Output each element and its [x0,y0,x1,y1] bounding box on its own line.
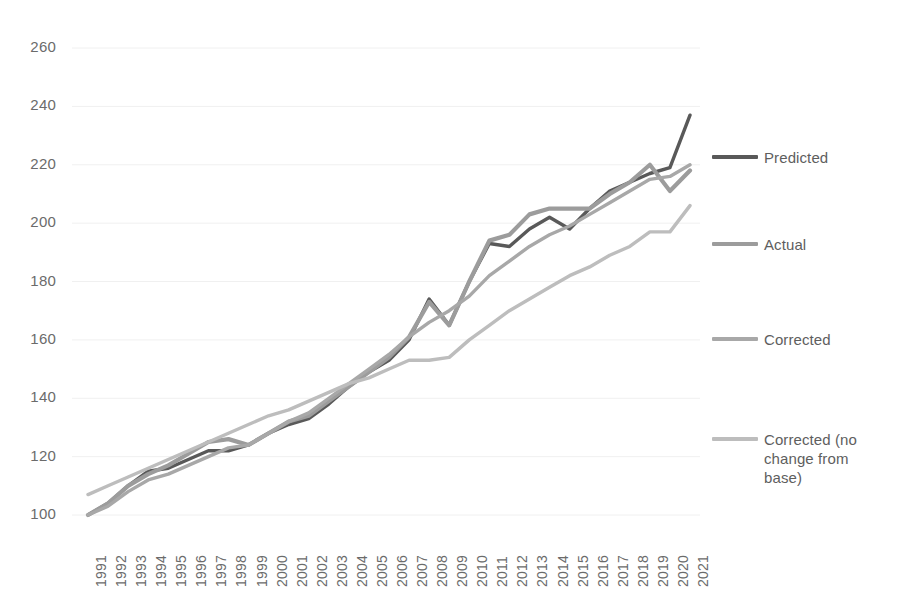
x-axis-tick-label: 1992 [113,555,129,587]
line-chart: 100120140160180200220240260 199119921993… [0,0,924,597]
x-axis-tick-label: 2016 [595,555,611,587]
legend-swatch-icon [712,337,758,341]
legend-item[interactable]: Actual [712,235,806,254]
y-axis-tick-label: 240 [16,96,56,113]
series-line-corrected-no-change-from-base [88,206,690,495]
x-axis-tick-label: 2012 [514,555,530,587]
x-axis-tick-label: 2006 [394,555,410,587]
gridlines [72,48,700,515]
x-axis-tick-label: 2007 [414,555,430,587]
x-axis-tick-label: 2009 [454,555,470,587]
y-axis-tick-label: 160 [16,330,56,347]
x-axis-tick-label: 2015 [575,555,591,587]
legend-swatch-icon [712,242,758,246]
y-axis-tick-label: 100 [16,505,56,522]
x-axis-tick-label: 2019 [655,555,671,587]
y-axis-tick-label: 180 [16,272,56,289]
x-axis-tick-label: 2020 [675,555,691,587]
x-axis-tick-label: 2011 [494,556,510,587]
y-axis-tick-label: 220 [16,155,56,172]
y-axis-tick-label: 140 [16,388,56,405]
y-axis-tick-label: 200 [16,213,56,230]
x-axis-tick-label: 1993 [133,555,149,587]
x-axis-tick-label: 2014 [555,555,571,587]
plot-area [0,0,924,597]
x-axis-tick-label: 1998 [233,555,249,587]
x-axis-tick-label: 2013 [534,555,550,587]
x-axis-tick-label: 2003 [334,555,350,587]
series-lines [88,115,690,515]
x-axis-tick-label: 1999 [254,555,270,587]
x-axis-tick-label: 1994 [153,555,169,587]
legend-label: Corrected (no change from base) [764,430,884,488]
x-axis-tick-label: 1995 [173,555,189,587]
legend-swatch-icon [712,155,758,159]
legend-label: Actual [764,235,806,254]
y-axis-tick-label: 260 [16,38,56,55]
x-axis-tick-label: 1996 [193,555,209,587]
x-axis-tick-label: 1997 [213,555,229,587]
x-axis-tick-label: 2001 [294,555,310,587]
x-axis-tick-label: 2000 [274,555,290,587]
x-axis-tick-label: 2008 [434,555,450,587]
x-axis-tick-label: 1991 [93,555,109,587]
legend-swatch-icon [712,437,758,441]
x-axis-tick-label: 2021 [695,555,711,587]
y-axis-tick-label: 120 [16,447,56,464]
legend-label: Predicted [764,148,828,167]
legend-item[interactable]: Corrected [712,330,831,349]
x-axis-tick-label: 2002 [314,555,330,587]
legend-label: Corrected [764,330,831,349]
legend-item[interactable]: Predicted [712,148,828,167]
x-axis-tick-label: 2010 [474,555,490,587]
x-axis-tick-label: 2004 [354,555,370,587]
x-axis-tick-label: 2017 [615,555,631,587]
legend-item[interactable]: Corrected (no change from base) [712,430,884,488]
x-axis-tick-label: 2018 [635,555,651,587]
x-axis-tick-label: 2005 [374,555,390,587]
